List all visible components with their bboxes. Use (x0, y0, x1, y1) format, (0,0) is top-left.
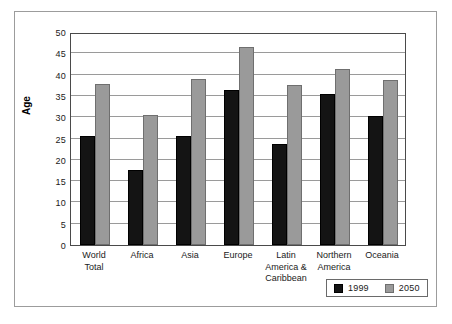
y-axis-tick-label: 5 (44, 220, 66, 230)
bar-1999-latin-america-caribbean (272, 144, 287, 245)
x-axis-label-line: America (310, 262, 358, 274)
y-axis-tick-label: 50 (44, 28, 66, 38)
y-axis-tick-label: 20 (44, 156, 66, 166)
x-axis-label-line: Oceania (358, 250, 406, 262)
chart-legend: 19992050 (326, 279, 428, 297)
y-axis-tick-label: 0 (44, 241, 66, 251)
y-axis-tick-label: 35 (44, 92, 66, 102)
y-axis-tick-labels: 50454035302520151050 (41, 33, 66, 246)
x-axis-label-asia: Asia (166, 250, 214, 262)
bar-1999-europe (224, 90, 239, 245)
x-axis-label-line: World (70, 250, 118, 262)
bar-group (359, 34, 406, 245)
legend-entry-1999: 1999 (334, 283, 369, 293)
x-axis-label-line: Total (70, 262, 118, 274)
legend-label: 1999 (348, 283, 369, 293)
x-axis-label-oceania: Oceania (358, 250, 406, 262)
bar-2050-asia (191, 79, 206, 245)
bar-2050-africa (143, 115, 158, 245)
bar-2050-oceania (383, 80, 398, 245)
legend-entry-2050: 2050 (385, 283, 420, 293)
x-axis-label-line: Africa (118, 250, 166, 262)
chart-figure: Age 50454035302520151050 WorldTotalAfric… (14, 11, 437, 307)
bar-group (71, 34, 119, 245)
x-axis-label-africa: Africa (118, 250, 166, 262)
x-axis-label-line: Caribbean (262, 273, 310, 285)
y-axis-title: Age (21, 96, 32, 115)
y-axis-tick-label: 25 (44, 135, 66, 145)
y-axis-tick-label: 40 (44, 71, 66, 81)
x-axis-label-line: Asia (166, 250, 214, 262)
black-square-swatch (334, 284, 343, 293)
legend-label: 2050 (399, 283, 420, 293)
bar-1999-world-total (80, 136, 95, 245)
plot-wrapper (70, 33, 406, 246)
x-axis-label-northern-america: NorthernAmerica (310, 250, 358, 273)
x-axis-label-line: Europe (214, 250, 262, 262)
bar-2050-europe (239, 47, 254, 245)
y-axis-tick-label: 15 (44, 177, 66, 187)
bar-group (119, 34, 167, 245)
y-axis-tick-label: 30 (44, 113, 66, 123)
x-axis-label-line: Northern (310, 250, 358, 262)
x-axis-label-latin-america-caribbean: LatinAmerica &Caribbean (262, 250, 310, 285)
x-axis-label-europe: Europe (214, 250, 262, 262)
bar-2050-northern-america (335, 69, 350, 245)
x-axis-label-line: America & (262, 262, 310, 274)
y-axis-tick-label: 45 (44, 49, 66, 59)
bar-group (311, 34, 359, 245)
plot-area (70, 33, 406, 246)
bar-group (263, 34, 311, 245)
y-axis-tick-label: 10 (44, 198, 66, 208)
bar-1999-africa (128, 170, 143, 245)
bar-group (215, 34, 263, 245)
x-axis-label-line: Latin (262, 250, 310, 262)
bar-group (167, 34, 215, 245)
bar-1999-asia (176, 136, 191, 245)
gray-square-swatch (385, 284, 394, 293)
bar-1999-northern-america (320, 94, 335, 245)
bar-1999-oceania (368, 116, 383, 245)
bar-2050-world-total (95, 84, 110, 245)
bar-2050-latin-america-caribbean (287, 85, 302, 245)
x-axis-label-world-total: WorldTotal (70, 250, 118, 273)
